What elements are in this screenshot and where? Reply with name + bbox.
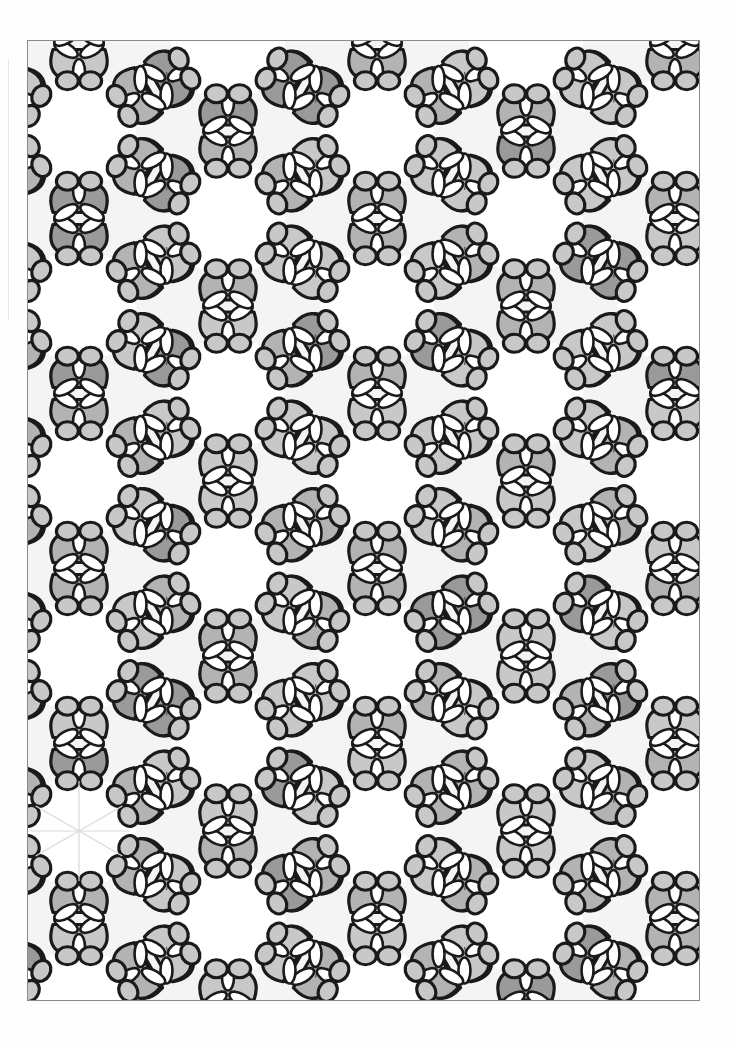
hexagon-ring — [28, 422, 142, 540]
bead — [229, 960, 251, 978]
bead — [652, 697, 674, 715]
bead — [676, 597, 698, 615]
bead — [503, 334, 525, 352]
bead — [652, 772, 674, 790]
hexagon-ring — [314, 247, 439, 365]
scan-artifact — [8, 60, 9, 320]
bead — [527, 435, 549, 453]
bead — [652, 347, 674, 365]
hexagon-ring — [314, 422, 439, 540]
bead — [378, 872, 400, 890]
bead — [205, 960, 227, 978]
bead — [652, 172, 674, 190]
bead — [205, 859, 227, 877]
bead — [652, 247, 674, 265]
bead — [56, 597, 78, 615]
bead — [205, 435, 227, 453]
bead — [699, 607, 700, 635]
bead — [378, 247, 400, 265]
bead — [378, 947, 400, 965]
bead — [378, 522, 400, 540]
bead — [80, 772, 102, 790]
bead — [527, 610, 549, 628]
bead — [503, 85, 525, 103]
bead — [378, 72, 400, 90]
bead — [699, 327, 700, 355]
bead — [205, 260, 227, 278]
bead — [676, 522, 698, 540]
bead — [229, 610, 251, 628]
bead — [354, 72, 376, 90]
heart-lobe — [28, 41, 48, 42]
bead — [527, 260, 549, 278]
bead — [527, 85, 549, 103]
bead — [80, 422, 102, 440]
bead — [354, 872, 376, 890]
leaf-trefoil — [499, 1000, 553, 1001]
bead — [205, 334, 227, 352]
bead — [527, 509, 549, 527]
bead — [699, 152, 700, 180]
bead — [80, 172, 102, 190]
bead — [80, 697, 102, 715]
bead — [354, 597, 376, 615]
bead — [229, 85, 251, 103]
coloring-page — [0, 0, 732, 1050]
hexagon-ring — [314, 72, 439, 190]
hexagon-ring — [28, 597, 142, 715]
bead — [503, 509, 525, 527]
hexagon-ring — [463, 859, 588, 977]
bead — [527, 785, 549, 803]
bead — [676, 697, 698, 715]
bead — [205, 684, 227, 702]
bead — [56, 872, 78, 890]
hexagon-ring — [463, 684, 588, 802]
bead — [354, 347, 376, 365]
bead — [80, 872, 102, 890]
hexagon-ring — [165, 509, 290, 627]
bead — [205, 610, 227, 628]
hexagon-ring — [165, 859, 290, 977]
bead — [378, 422, 400, 440]
bead — [652, 522, 674, 540]
bead — [676, 247, 698, 265]
bead — [676, 772, 698, 790]
bead — [354, 947, 376, 965]
bead — [80, 247, 102, 265]
hexagon-ring — [463, 509, 588, 627]
bead — [699, 432, 700, 460]
hexagon-pattern-artwork — [28, 41, 700, 1001]
bead — [354, 422, 376, 440]
bead — [676, 422, 698, 440]
bead — [699, 82, 700, 110]
bead — [378, 597, 400, 615]
bead — [56, 247, 78, 265]
bead — [652, 947, 674, 965]
bead — [205, 85, 227, 103]
bead — [80, 597, 102, 615]
bead — [56, 697, 78, 715]
bead — [676, 947, 698, 965]
bead — [699, 782, 700, 810]
leaf-trefoil — [201, 1000, 255, 1001]
bead — [378, 772, 400, 790]
bead — [676, 72, 698, 90]
bead — [229, 159, 251, 177]
bead — [205, 785, 227, 803]
bead — [503, 960, 525, 978]
bead — [229, 859, 251, 877]
bead — [699, 957, 700, 985]
hexagon-ring — [28, 247, 142, 365]
bead — [205, 159, 227, 177]
bead — [56, 72, 78, 90]
bead — [229, 684, 251, 702]
pattern-frame — [27, 40, 700, 1001]
bead — [503, 859, 525, 877]
bead — [354, 772, 376, 790]
bead — [229, 260, 251, 278]
bead — [229, 435, 251, 453]
bead — [699, 677, 700, 705]
bead — [80, 947, 102, 965]
hexagon-ring — [314, 597, 439, 715]
bead — [80, 347, 102, 365]
